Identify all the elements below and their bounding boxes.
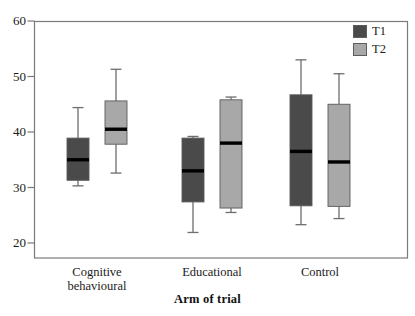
legend-item-t2[interactable]: T2 <box>353 42 405 57</box>
y-tick-label: 60 <box>0 14 26 27</box>
box-plot-box[interactable] <box>105 69 127 173</box>
x-category-label: Cognitive behavioural <box>37 266 157 293</box>
y-tick-label: 40 <box>0 125 26 138</box>
y-tick-label: 20 <box>0 236 26 249</box>
legend-swatch-t1 <box>353 25 367 38</box>
y-tick-label: 50 <box>0 70 26 83</box>
box-plot-chart: 2030405060 Cognitive behaviouralEducatio… <box>0 0 415 316</box>
box-plot-box[interactable] <box>220 97 242 212</box>
box-iqr-rect <box>328 104 350 206</box>
y-axis-ticks <box>28 21 35 243</box>
box-plot-box[interactable] <box>182 136 204 232</box>
x-axis-title: Arm of trial <box>0 292 415 307</box>
box-iqr-rect <box>220 100 242 208</box>
box-iqr-rect <box>105 101 127 144</box>
box-plot-box[interactable] <box>328 74 350 219</box>
legend: T1 T2 <box>353 24 405 60</box>
y-tick-label: 30 <box>0 181 26 194</box>
box-plot-box[interactable] <box>67 108 89 186</box>
box-group-layer <box>67 60 350 233</box>
box-plot-box[interactable] <box>290 60 312 225</box>
x-category-label: Control <box>260 266 380 280</box>
legend-item-t1[interactable]: T1 <box>353 24 405 39</box>
legend-label-t2: T2 <box>372 43 386 56</box>
x-category-label: Educational <box>152 266 272 280</box>
legend-swatch-t2 <box>353 43 367 56</box>
legend-label-t1: T1 <box>372 25 386 38</box>
